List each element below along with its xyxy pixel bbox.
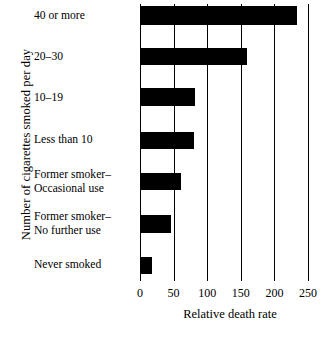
gridline-100 (207, 4, 208, 281)
category-label-10-19: 10–19 (34, 91, 138, 105)
x-tick-label-250: 250 (288, 286, 328, 301)
category-label-column: 40 or more 20–30 10–19 Less than 10 Form… (34, 0, 138, 281)
x-axis-tick-labels: 0 50 100 150 200 250 (0, 286, 328, 304)
plot-area (140, 4, 312, 281)
bar-40-or-more (141, 6, 297, 25)
category-label-40-or-more: 40 or more (34, 9, 138, 23)
x-axis-title: Relative death rate (140, 307, 320, 322)
y-axis-title: Number of cigarettes smoked per day (19, 11, 34, 279)
bar-former-occasional-use (141, 173, 181, 190)
category-label-former-occasional-use: Former smoker– Occasional use (34, 168, 138, 195)
category-label-less-than-10: Less than 10 (34, 133, 138, 147)
bar-10-19 (141, 88, 195, 106)
bar-20-30 (141, 48, 247, 65)
gridline-150 (241, 4, 242, 281)
category-label-former-no-further-use: Former smoker– No further use (34, 210, 138, 237)
gridline-250 (308, 4, 309, 281)
bar-never-smoked (141, 257, 152, 274)
bar-former-no-further-use (141, 215, 171, 233)
category-label-never-smoked: Never smoked (34, 258, 138, 272)
gridline-200 (274, 4, 275, 281)
category-label-20-30: 20–30 (34, 50, 138, 64)
bar-chart-figure: Number of cigarettes smoked per day 40 o… (0, 0, 328, 343)
bar-less-than-10 (141, 132, 194, 149)
